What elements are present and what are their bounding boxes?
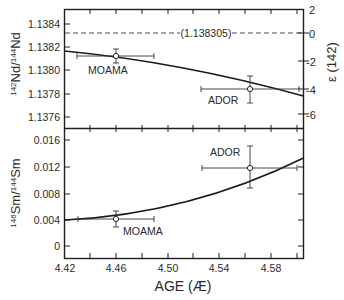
- upper-ytick: 1.1376: [28, 111, 60, 123]
- xtick: 4.50: [158, 262, 179, 274]
- upper-ador-label: ADOR: [208, 94, 239, 106]
- upper-y-axis: 1.1384 1.1382 1.1380 1.1378 1.1376: [28, 18, 70, 123]
- lower-moama-label: MOAMA: [123, 225, 163, 237]
- xtick: 4.42: [55, 262, 76, 274]
- plot-frame: [65, 10, 304, 259]
- xtick: 4.58: [261, 262, 282, 274]
- lower-ytick: 0.016: [34, 134, 60, 146]
- upper-moama-label: MOAMA: [88, 64, 128, 76]
- xtick: 4.46: [106, 262, 127, 274]
- lower-ytick: 0.008: [34, 188, 60, 200]
- right-ytick: 0: [309, 28, 315, 40]
- upper-ytick: 1.1378: [28, 88, 60, 100]
- lower-ylabel: 146Sm/144Sm: [8, 158, 23, 227]
- lower-model-curve: [65, 158, 304, 220]
- upper-ytick: 1.1384: [28, 18, 60, 30]
- lower-ytick: 0.004: [34, 214, 60, 226]
- right-ylabel: ε (142): [324, 42, 339, 82]
- right-ytick: 2: [309, 4, 315, 16]
- lower-ytick: 0: [54, 240, 60, 252]
- lower-y-axis: 0.016 0.012 0.008 0.004 0: [34, 134, 304, 252]
- right-ytick: -2: [306, 56, 316, 68]
- lower-ytick: 0.012: [34, 161, 60, 173]
- upper-ytick: 1.1380: [28, 64, 60, 76]
- right-ytick: -4: [306, 84, 316, 96]
- xtick: 4.54: [209, 262, 230, 274]
- reference-label: (1.138305): [181, 27, 232, 39]
- lower-ador-label: ADOR: [210, 146, 241, 158]
- upper-ytick: 1.1382: [28, 41, 60, 53]
- chart-figure: 1.1384 1.1382 1.1380 1.1378 1.1376 2 0 -…: [0, 0, 344, 300]
- x-axis-label: AGE (Æ): [155, 278, 212, 294]
- right-ytick: -6: [306, 109, 316, 121]
- upper-ylabel: 142Nd/144Nd: [8, 32, 23, 96]
